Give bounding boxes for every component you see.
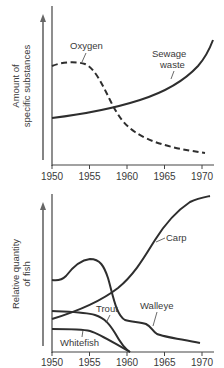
bottom-y-label-line1: Relative quantity	[10, 239, 21, 309]
tick-label: 1955	[78, 357, 101, 368]
walleye-leader	[153, 312, 157, 326]
top-y-label-line1: Amount of	[10, 64, 21, 108]
top-x-tick-labels: 1950 1955 1960 1965 1970	[41, 171, 214, 182]
tick-label: 1960	[116, 171, 139, 182]
trout-leader	[106, 315, 110, 323]
carp-leader	[156, 238, 165, 242]
trout-label: Trout	[96, 303, 118, 314]
sewage-label-line2: waste	[159, 59, 185, 70]
tick-label: 1950	[41, 357, 64, 368]
tick-label: 1970	[191, 357, 214, 368]
tick-label: 1960	[116, 357, 139, 368]
bottom-y-axis-label: Relative quantity of fish	[10, 239, 32, 309]
bottom-y-arrow-icon	[40, 202, 46, 346]
figure: Amount of specific substances 1950 1955 …	[0, 0, 224, 368]
sewage-waste-line	[52, 40, 213, 118]
tick-label: 1970	[191, 171, 214, 182]
top-y-axis-label: Amount of specific substances	[10, 45, 32, 128]
bottom-x-tick-labels: 1950 1955 1960 1965 1970	[41, 357, 214, 368]
tick-label: 1965	[153, 171, 176, 182]
walleye-label: Walleye	[140, 300, 173, 311]
sewage-label-line1: Sewage	[152, 48, 186, 59]
bottom-chart: Relative quantity of fish 1950 1955 1960…	[10, 194, 214, 368]
whitefish-label: Whitefish	[60, 337, 99, 348]
walleye-line	[52, 259, 200, 343]
tick-label: 1955	[78, 171, 101, 182]
bottom-y-label-line2: of fish	[21, 261, 32, 286]
tick-label: 1965	[153, 357, 176, 368]
sewage-leader	[171, 71, 174, 79]
top-chart: Amount of specific substances 1950 1955 …	[10, 6, 214, 182]
top-x-ticks	[52, 165, 202, 169]
oxygen-label: Oxygen	[70, 40, 103, 51]
whitefish-leader	[82, 330, 83, 337]
top-y-label-line2: specific substances	[21, 45, 32, 128]
oxygen-line	[52, 62, 205, 153]
tick-label: 1950	[41, 171, 64, 182]
oxygen-leader	[82, 53, 86, 62]
carp-label: Carp	[166, 232, 187, 243]
top-y-arrow-icon	[40, 14, 46, 160]
carp-line	[52, 196, 210, 319]
